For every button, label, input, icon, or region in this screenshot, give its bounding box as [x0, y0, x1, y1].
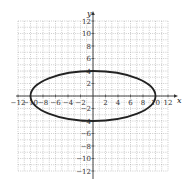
x-tick-label: −8 [38, 99, 48, 107]
y-tick-label: 6 [87, 55, 92, 63]
tick-labels: −12−10−8−6−4−22468101212108642−2−4−6−8−1… [11, 18, 173, 176]
y-tick-label: 2 [87, 80, 91, 88]
x-axis-label: x [177, 96, 182, 105]
y-axis-arrow-icon [91, 11, 95, 15]
x-tick-label: 8 [141, 99, 145, 107]
x-tick-label: 4 [116, 99, 121, 107]
x-tick-label: −4 [63, 99, 74, 107]
y-tick-label: 10 [82, 30, 91, 38]
y-tick-label: −12 [76, 168, 91, 176]
y-tick-label: −6 [81, 130, 92, 138]
y-tick-label: 12 [82, 18, 91, 26]
y-tick-label: −10 [76, 155, 91, 163]
x-tick-label: 6 [128, 99, 133, 107]
y-tick-label: −8 [81, 143, 91, 151]
x-tick-label: 12 [164, 99, 173, 107]
x-tick-label: −6 [50, 99, 61, 107]
y-axis-label: y [86, 9, 92, 18]
x-tick-label: 2 [103, 99, 107, 107]
y-tick-label: −2 [81, 105, 91, 113]
ellipse-graph: −12−10−8−6−4−22468101212108642−2−4−6−8−1… [0, 0, 187, 186]
y-tick-label: 8 [87, 43, 91, 51]
axes [16, 11, 178, 179]
